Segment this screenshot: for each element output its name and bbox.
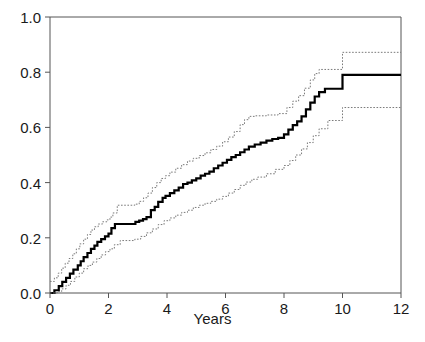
axis-frame xyxy=(50,17,401,293)
y-tick-label: 0.8 xyxy=(0,65,41,80)
series-line-lower-ci xyxy=(50,108,401,293)
x-axis-title: Years xyxy=(0,311,425,326)
cumulative-incidence-chart: 0.00.20.40.60.81.0024681012 Years xyxy=(0,0,425,342)
y-axis-ticks xyxy=(45,17,50,293)
plot-area xyxy=(0,0,425,342)
y-tick-label: 0.2 xyxy=(0,231,41,246)
series-layer xyxy=(50,52,401,293)
y-tick-label: 1.0 xyxy=(0,10,41,25)
x-axis-ticks xyxy=(50,293,401,298)
y-tick-label: 0.4 xyxy=(0,176,41,191)
y-tick-label: 0.6 xyxy=(0,120,41,135)
y-tick-label: 0.0 xyxy=(0,286,41,301)
series-line-upper-ci xyxy=(50,52,401,281)
